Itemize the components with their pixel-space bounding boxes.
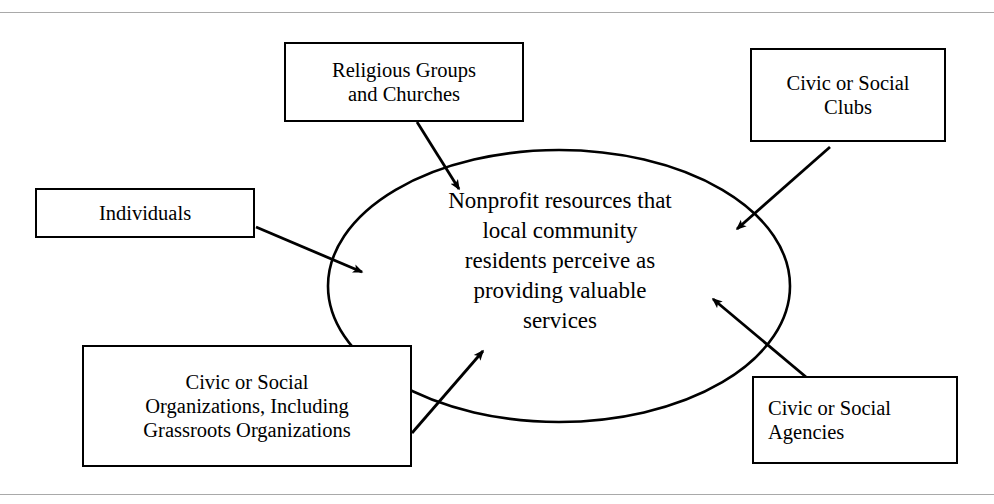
node-label-individuals: Individuals	[99, 201, 191, 225]
node-label-civic-or-social-organizations: Civic or Social Organizations, Including…	[143, 370, 350, 443]
node-label-civic-or-social-clubs: Civic or Social Clubs	[787, 71, 910, 119]
center-ellipse-label: Nonprofit resources that local community…	[370, 186, 750, 335]
node-box-civic-or-social-agencies[interactable]: Civic or Social Agencies	[752, 376, 958, 464]
node-box-individuals[interactable]: Individuals	[35, 188, 255, 238]
node-box-civic-or-social-organizations[interactable]: Civic or Social Organizations, Including…	[82, 345, 412, 467]
connector-religious-to-center	[417, 122, 459, 189]
node-label-religious-groups-and-churches: Religious Groups and Churches	[332, 58, 476, 106]
bottom-horizontal-rule	[0, 494, 994, 495]
node-label-civic-or-social-agencies: Civic or Social Agencies	[768, 396, 891, 444]
connector-clubs-to-center	[737, 147, 830, 229]
node-box-religious-groups-and-churches[interactable]: Religious Groups and Churches	[284, 42, 524, 122]
figure-canvas: Nonprofit resources that local community…	[0, 0, 994, 504]
node-box-civic-or-social-clubs[interactable]: Civic or Social Clubs	[750, 48, 946, 142]
connector-individuals-to-center	[256, 227, 362, 272]
connector-organizations-to-center	[412, 351, 483, 433]
top-horizontal-rule	[0, 12, 994, 13]
